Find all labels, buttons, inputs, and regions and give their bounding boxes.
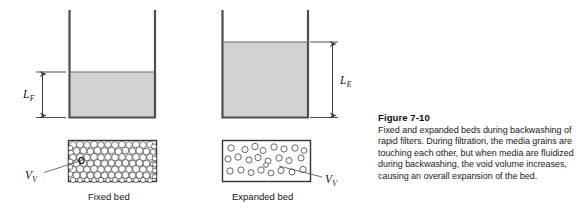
figure-caption-text: Fixed and expanded beds during backwashi… xyxy=(378,125,578,182)
expanded-bed-depth-label: LE xyxy=(340,75,351,87)
fixed-bed-void-volume-label: VV xyxy=(25,170,37,182)
expanded-bed-media-fill xyxy=(224,42,308,118)
fixed-bed-caption: Fixed bed xyxy=(88,192,130,202)
figure-number: Figure 7-10 xyxy=(378,112,578,124)
fixed-bed-depth-dimension xyxy=(36,72,66,118)
expanded-bed-vessel xyxy=(223,10,309,118)
fixed-bed-grains xyxy=(68,141,157,183)
fixed-bed-media-fill xyxy=(71,72,155,118)
fixed-bed-detail-box xyxy=(44,141,157,183)
expanded-bed-void-volume-label: VV xyxy=(325,174,337,186)
bed-expansion-diagram xyxy=(0,0,340,222)
expanded-bed-detail-box xyxy=(223,141,323,182)
figure-7-10: LF LE VV VV Fixed bed Expanded bed Figur… xyxy=(0,0,583,222)
expanded-bed-caption: Expanded bed xyxy=(232,192,293,202)
figure-caption-block: Figure 7-10 Fixed and expanded beds duri… xyxy=(378,112,578,182)
fixed-bed-vessel xyxy=(70,10,156,118)
expanded-bed-depth-dimension xyxy=(310,42,338,118)
fixed-bed-depth-label: LF xyxy=(23,89,34,101)
